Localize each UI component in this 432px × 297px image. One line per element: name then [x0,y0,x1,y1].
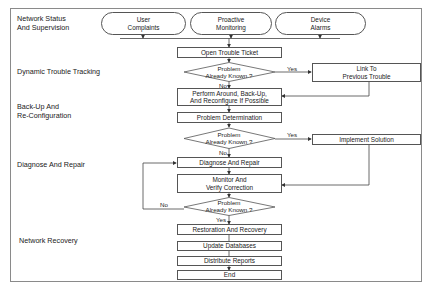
source-user-complaints: User Complaints [101,12,186,35]
step-link-previous-trouble: Link To Previous Trouble [312,63,421,82]
step-diagnose-repair: Diagnose And Repair [177,157,282,168]
step-distribute-reports: Distribute Reports [177,256,282,266]
source-proactive-monitoring: Proactive Monitoring [190,12,272,35]
step-update-databases: Update Databases [177,241,282,251]
edge-label-d2-no: No [219,149,227,156]
decision-3-label: Problem Already Known ? [194,199,264,213]
edge-label-d3-no: No [160,201,168,208]
connector-lines [0,0,432,297]
decision-2-label: Problem Already Known ? [194,131,264,145]
decision-1-label: Problem Already Known ? [194,65,264,79]
phase-backup-reconfiguration: Back-Up And Re-Configuration [17,103,71,120]
step-problem-determination: Problem Determination [177,112,282,123]
edge-label-d1-no: No [219,82,227,89]
edge-label-d2-yes: Yes [287,131,297,138]
step-restoration-recovery: Restoration And Recovery [177,224,282,235]
source-device-alarms: Device Alarms [275,12,366,35]
step-monitor-verify: Monitor And Verify Correction [177,174,282,193]
step-end: End [177,270,282,280]
step-open-trouble-ticket: Open Trouble Ticket [177,47,282,58]
trouble-management-flowchart: Network Status And Supervision Dynamic T… [0,0,432,297]
phase-dynamic-trouble-tracking: Dynamic Trouble Tracking [17,68,100,77]
edge-label-d1-yes: Yes [287,65,297,72]
phase-network-status: Network Status And Supervision [17,15,69,32]
phase-network-recovery: Network Recovery [19,237,78,246]
step-perform-around: Perform Around, Back-Up, And Reconfigure… [177,88,282,106]
step-implement-solution: Implement Solution [312,134,421,145]
phase-diagnose-repair: Diagnose And Repair [17,161,85,170]
edge-label-d3-yes: Yes [216,216,226,223]
